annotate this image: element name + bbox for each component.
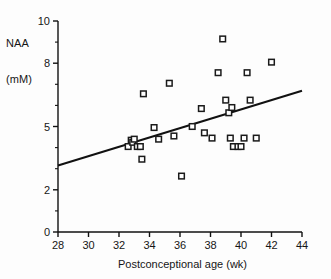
data-point-marker bbox=[215, 70, 221, 76]
data-point-marker bbox=[241, 135, 247, 141]
data-point-marker bbox=[247, 97, 253, 103]
data-point-marker bbox=[131, 136, 137, 142]
data-point-marker bbox=[269, 59, 275, 65]
data-point-marker bbox=[138, 144, 144, 150]
data-point-marker bbox=[151, 125, 157, 131]
x-tick-label-40: 40 bbox=[235, 239, 247, 251]
data-point-marker bbox=[238, 144, 244, 150]
y-tick-label-10: 10 bbox=[38, 15, 50, 27]
data-point-marker bbox=[156, 136, 162, 142]
x-tick-label-32: 32 bbox=[113, 239, 125, 251]
regression-line bbox=[58, 91, 302, 166]
data-point-marker bbox=[141, 91, 147, 97]
x-tick-label-36: 36 bbox=[174, 239, 186, 251]
data-point-marker bbox=[202, 130, 208, 136]
scatter-plot-canvas: 025810283032343638404244 bbox=[0, 0, 331, 279]
data-point-marker bbox=[220, 36, 226, 42]
x-axis-label-wrap: Postconceptional age (wk) bbox=[0, 258, 331, 270]
data-point-marker bbox=[139, 156, 145, 162]
data-point-marker bbox=[199, 106, 205, 112]
x-axis-label: Postconceptional age (wk) bbox=[84, 258, 247, 270]
y-tick-label-5: 5 bbox=[44, 121, 50, 133]
data-point-marker bbox=[253, 135, 259, 141]
x-tick-label-44: 44 bbox=[296, 239, 308, 251]
data-point-marker bbox=[244, 70, 250, 76]
x-tick-label-42: 42 bbox=[265, 239, 277, 251]
data-point-marker bbox=[167, 80, 173, 86]
data-point-marker bbox=[209, 135, 215, 141]
x-tick-label-30: 30 bbox=[82, 239, 94, 251]
data-point-marker bbox=[228, 135, 234, 141]
data-point-marker bbox=[223, 97, 229, 103]
data-point-marker bbox=[179, 173, 185, 179]
x-tick-label-38: 38 bbox=[204, 239, 216, 251]
y-tick-label-8: 8 bbox=[44, 57, 50, 69]
chart-figure: NAA (mM) 025810283032343638404244 Postco… bbox=[0, 0, 331, 279]
y-tick-label-2: 2 bbox=[44, 184, 50, 196]
x-tick-label-34: 34 bbox=[143, 239, 155, 251]
data-point-marker bbox=[171, 133, 177, 139]
data-point-marker bbox=[229, 105, 235, 111]
x-tick-label-28: 28 bbox=[52, 239, 64, 251]
data-point-marker bbox=[189, 124, 195, 130]
y-tick-label-0: 0 bbox=[44, 226, 50, 238]
